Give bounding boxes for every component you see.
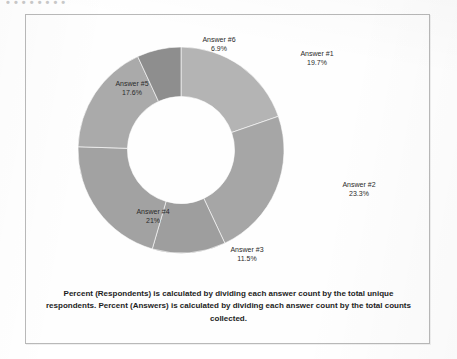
slice-label-answer-5: Answer #5 17.6% (99, 79, 165, 98)
slice-label-answer-6: Answer #6 6.9% (186, 35, 252, 54)
slice-label-answer-1: Answer #1 19.7% (284, 49, 350, 68)
slice-label-name: Answer #3 (214, 245, 280, 254)
slice-label-value: 21% (120, 216, 186, 225)
slice-label-answer-2: Answer #2 23.3% (326, 180, 392, 199)
slice-label-name: Answer #4 (120, 207, 186, 216)
slice-label-value: 11.5% (214, 254, 280, 263)
donut-slice-1[interactable] (181, 47, 278, 132)
scan-top-cutoff-text: • • • • • • • • (6, 0, 126, 8)
figure-frame: Answer #6 6.9% Answer #1 19.7% Answer #2… (25, 14, 430, 344)
donut-slice-4[interactable] (78, 147, 166, 249)
chart-caption: Percent (Respondents) is calculated by d… (44, 288, 413, 325)
slice-label-value: 17.6% (99, 88, 165, 97)
slice-label-name: Answer #1 (284, 49, 350, 58)
donut-chart: Answer #6 6.9% Answer #1 19.7% Answer #2… (26, 15, 431, 285)
slice-label-value: 6.9% (186, 44, 252, 53)
slice-label-answer-4: Answer #4 21% (120, 207, 186, 226)
slice-label-name: Answer #5 (99, 79, 165, 88)
slice-label-value: 23.3% (326, 189, 392, 198)
slice-label-name: Answer #6 (186, 35, 252, 44)
slice-label-name: Answer #2 (326, 180, 392, 189)
slice-label-value: 19.7% (284, 58, 350, 67)
slice-label-answer-3: Answer #3 11.5% (214, 245, 280, 264)
